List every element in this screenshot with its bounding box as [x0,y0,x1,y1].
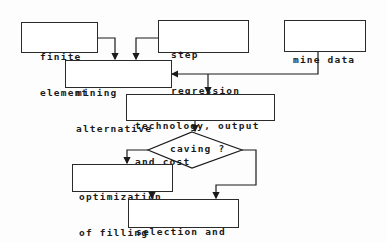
technology-line1: technology, output [135,120,268,132]
selection-line1: selection and [136,226,232,238]
caving-label: caving ? [170,143,225,154]
technology-box: technology, output and cost [126,94,275,121]
optimization-box: optimization of filling [72,164,173,192]
mine-data-label: mine data [293,54,359,66]
finite-element-box: finite element [21,22,98,53]
selection-box: selection and decision [128,199,239,228]
mining-alternative-box: mining alternative [65,60,172,88]
mine-data-box: mine data [284,20,366,52]
step-regression-line1: step [171,49,242,61]
step-regression-box: step regression [158,20,249,53]
flowchart-canvas: finite element step regression mine data… [0,0,387,242]
